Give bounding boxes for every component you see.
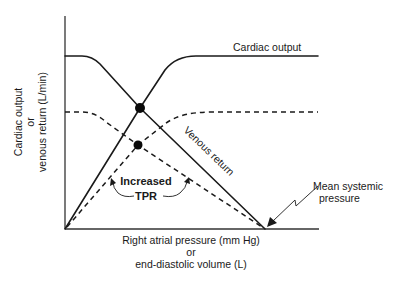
x-axis-label-line1: Right atrial pressure (mm Hg) bbox=[122, 234, 260, 246]
right-arrowhead-icon bbox=[184, 177, 190, 184]
increased-tpr-annotation: Increased TPR bbox=[110, 175, 190, 202]
increased-label: Increased bbox=[120, 175, 171, 187]
y-axis-label-line2: or bbox=[24, 117, 36, 127]
venous-return-curve-control bbox=[65, 56, 265, 229]
equilibrium-point-increased-tpr bbox=[134, 141, 143, 150]
y-axis-label-line3: venous return (L/min) bbox=[36, 72, 48, 172]
cardiac-output-label: Cardiac output bbox=[233, 41, 301, 53]
mean-systemic-label-line1: Mean systemic bbox=[313, 180, 383, 192]
tpr-label: TPR bbox=[135, 190, 157, 202]
x-axis-label-line2: or bbox=[186, 246, 196, 258]
mean-systemic-pressure-annotation: Mean systemic pressure bbox=[267, 180, 383, 227]
x-axis-label: Right atrial pressure (mm Hg) or end-dia… bbox=[122, 234, 260, 270]
y-axis-label: Cardiac output or venous return (L/min) bbox=[12, 72, 48, 172]
cardiac-venous-return-diagram: Cardiac output or venous return (L/min) … bbox=[0, 0, 416, 281]
y-axis-label-line1: Cardiac output bbox=[12, 88, 24, 156]
equilibrium-point-control bbox=[135, 103, 145, 113]
x-axis-label-line3: end-diastolic volume (L) bbox=[135, 258, 246, 270]
cardiac-output-curve-control bbox=[65, 56, 318, 229]
venous-return-label: Venous return bbox=[182, 124, 237, 178]
mean-systemic-label-line2: pressure bbox=[319, 192, 360, 204]
mean-systemic-zigzag-arrow bbox=[273, 186, 318, 221]
